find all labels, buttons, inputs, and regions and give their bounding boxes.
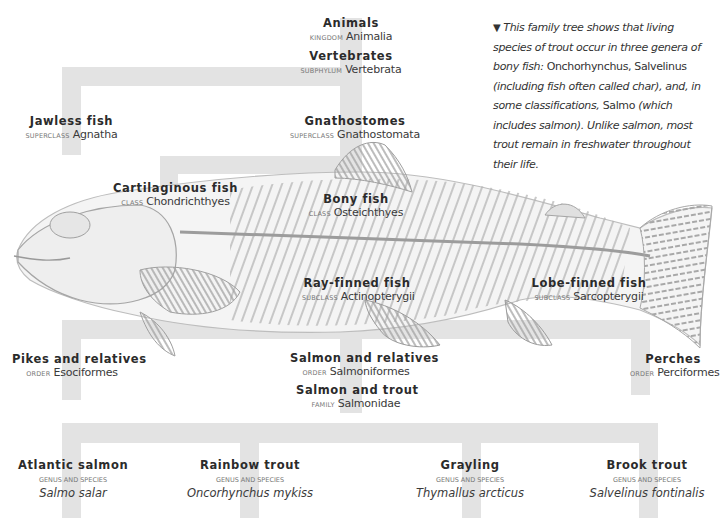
species-atlantic-salmon: Atlantic salmon Genus and species Salmo … — [18, 458, 128, 500]
node-scientific-name: Esociformes — [53, 366, 117, 379]
node-scientific-name: Animalia — [346, 30, 392, 43]
node-rank: Subphylum — [301, 67, 343, 75]
node-bony-fish: Bony fish ClassOsteichthyes — [306, 192, 406, 221]
node-salmon-and-relatives: Salmon and relatives OrderSalmoniformes — [290, 351, 422, 380]
species-rank: Genus and species — [18, 475, 128, 486]
node-scientific-name: Sarcopterygii — [573, 290, 643, 303]
node-scientific-name: Vertebrata — [345, 63, 401, 76]
node-gnathostomes: Gnathostomes SuperclassGnathostomata — [286, 114, 424, 143]
species-rainbow-trout: Rainbow trout Genus and species Oncorhyn… — [180, 458, 320, 500]
node-cartilaginous-fish: Cartilaginous fish ClassChondrichthyes — [108, 181, 243, 210]
node-rank: Order — [26, 370, 50, 378]
node-rank: Subclass — [534, 294, 570, 302]
species-rank: Genus and species — [578, 475, 716, 486]
node-vertebrates: Vertebrates SubphylumVertebrata — [286, 49, 416, 78]
node-animals: Animals KingdomAnimalia — [296, 16, 406, 45]
node-ray-finned-fish: Ray-finned fish SubclassActinopterygii — [302, 276, 412, 305]
node-rank: Class — [121, 199, 143, 207]
node-jawless-fish: Jawless fish SuperclassAgnatha — [14, 114, 129, 143]
node-common-name: Salmon and relatives — [290, 351, 422, 365]
species-brook-trout: Brook trout Genus and species Salvelinus… — [578, 458, 716, 500]
species-binomial: Oncorhynchus mykiss — [180, 486, 320, 500]
species-grayling: Grayling Genus and species Thymallus arc… — [405, 458, 535, 500]
node-common-name: Perches — [630, 352, 716, 366]
node-scientific-name: Actinopterygii — [341, 290, 415, 303]
species-binomial: Salvelinus fontinalis — [578, 486, 716, 500]
node-common-name: Salmon and trout — [296, 383, 416, 397]
species-rank: Genus and species — [405, 475, 535, 486]
node-rank: Superclass — [26, 132, 70, 140]
node-scientific-name: Chondrichthyes — [146, 195, 229, 208]
node-common-name: Jawless fish — [14, 114, 129, 128]
node-rank: Order — [630, 370, 654, 378]
node-scientific-name: Salmonidae — [338, 397, 401, 410]
node-pikes: Pikes and relatives OrderEsociformes — [12, 352, 132, 381]
node-rank: Class — [309, 210, 331, 218]
node-scientific-name: Gnathostomata — [337, 128, 420, 141]
node-salmon-and-trout: Salmon and trout FamilySalmonidae — [296, 383, 416, 412]
node-scientific-name: Osteichthyes — [334, 206, 403, 219]
node-common-name: Cartilaginous fish — [108, 181, 243, 195]
node-common-name: Lobe-finned fish — [530, 276, 648, 290]
species-common-name: Atlantic salmon — [18, 458, 128, 472]
node-lobe-finned-fish: Lobe-finned fish SubclassSarcopterygii — [530, 276, 648, 305]
node-common-name: Vertebrates — [286, 49, 416, 63]
node-common-name: Animals — [296, 16, 406, 30]
node-common-name: Ray-finned fish — [302, 276, 412, 290]
node-scientific-name: Perciformes — [657, 366, 719, 379]
node-rank: Subclass — [302, 294, 338, 302]
node-rank: Superclass — [290, 132, 334, 140]
node-rank: Order — [302, 369, 326, 377]
species-common-name: Grayling — [405, 458, 535, 472]
species-common-name: Brook trout — [578, 458, 716, 472]
caption-text: ▼This family tree shows that living spec… — [493, 18, 715, 174]
caption-segment: Salmo — [603, 99, 639, 112]
species-common-name: Rainbow trout — [180, 458, 320, 472]
node-scientific-name: Salmoniformes — [330, 365, 410, 378]
node-rank: Kingdom — [310, 34, 343, 42]
node-common-name: Gnathostomes — [286, 114, 424, 128]
node-common-name: Bony fish — [306, 192, 406, 206]
node-perches: Perches OrderPerciformes — [630, 352, 716, 381]
caption-segment: Onchorhynchus, Salvelinus — [547, 60, 687, 73]
species-rank: Genus and species — [180, 475, 320, 486]
triangle-marker-icon: ▼ — [493, 22, 500, 33]
species-binomial: Salmo salar — [18, 486, 128, 500]
species-binomial: Thymallus arcticus — [405, 486, 535, 500]
node-common-name: Pikes and relatives — [12, 352, 132, 366]
node-rank: Family — [312, 401, 335, 409]
node-scientific-name: Agnatha — [73, 128, 118, 141]
